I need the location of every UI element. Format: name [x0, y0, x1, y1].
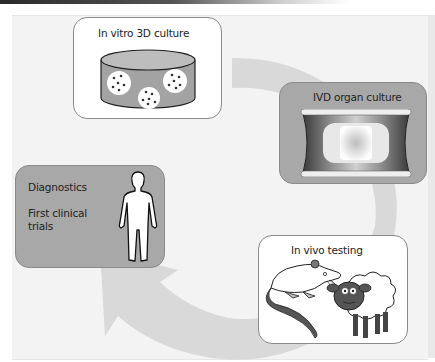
stage-organ-culture-label: IVD organ culture	[313, 91, 402, 103]
stage-clinical-trials-label: trials	[28, 220, 53, 232]
stage-organ-culture-box: IVD organ culture	[279, 82, 427, 184]
culture-dish-icon	[99, 48, 197, 110]
stage-clinical-first-label: First clinical	[28, 207, 87, 219]
stage-clinical-diagnostics-label: Diagnostics	[28, 181, 87, 193]
human-figure-icon	[116, 170, 160, 264]
stage-clinical-box: Diagnostics First clinical trials	[15, 165, 165, 268]
stage-in-vivo-label: In vivo testing	[291, 244, 363, 256]
stage-in-vitro-label: In vitro 3D culture	[98, 27, 189, 39]
rat-and-sheep-icon	[263, 258, 405, 342]
stage-in-vitro-box: In vitro 3D culture	[73, 17, 222, 119]
stage-in-vivo-box: In vivo testing	[258, 235, 408, 344]
intervertebral-disc-icon	[297, 109, 415, 177]
